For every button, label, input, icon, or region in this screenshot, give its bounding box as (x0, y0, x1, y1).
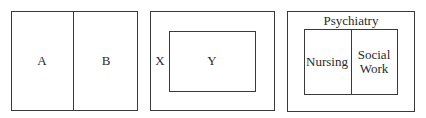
label-a: A (37, 54, 46, 68)
label-nursing: Nursing (306, 55, 348, 69)
label-x: X (155, 54, 164, 68)
label-psychiatry: Psychiatry (324, 14, 379, 28)
label-social-work: Social Work (358, 48, 391, 76)
label-y: Y (207, 54, 216, 68)
label-b: B (102, 54, 111, 68)
diagram-ab-outer-box (11, 11, 138, 111)
label-social: Social (358, 48, 391, 62)
diagram-ab-divider (73, 11, 74, 111)
label-work: Work (358, 62, 391, 76)
diagram-psychiatry-inner-divider (351, 29, 352, 95)
